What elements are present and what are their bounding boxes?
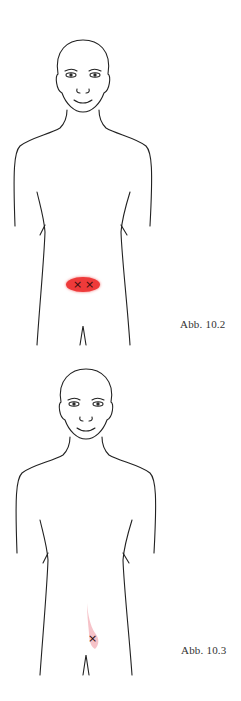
figure-10-3: × Abb. 10.3 <box>0 353 241 701</box>
figure-caption: Abb. 10.2 <box>180 318 226 330</box>
figure-caption: Abb. 10.3 <box>181 644 227 656</box>
body-outline-icon <box>0 0 241 350</box>
marker-x-icon: × <box>73 277 82 292</box>
marker-x-icon: × <box>85 277 94 292</box>
pain-zone-ellipse <box>66 277 100 292</box>
marker-x-icon: × <box>88 631 97 646</box>
figure-10-2: × × Abb. 10.2 <box>0 0 241 350</box>
